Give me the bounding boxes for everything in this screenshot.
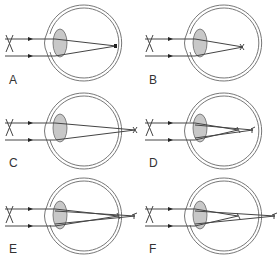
panel-a: A: [0, 0, 139, 88]
panel-b: B: [140, 0, 279, 88]
eye-diagram-e: [0, 176, 139, 264]
eye-diagram-d: [140, 88, 279, 176]
panel-label-d: D: [149, 156, 158, 170]
eye-diagram-c: [0, 88, 139, 176]
panel-e: E: [0, 176, 139, 264]
lens-icon: [53, 114, 67, 142]
lens-icon: [193, 29, 207, 57]
panel-label-f: F: [149, 242, 156, 256]
eye-diagram-b: [140, 0, 279, 88]
eye-diagram-a: [0, 0, 139, 88]
focal-point-icon: [114, 44, 117, 48]
panel-label-e: E: [9, 242, 17, 256]
panel-label-b: B: [149, 73, 157, 87]
panel-label-c: C: [9, 156, 18, 170]
lens-icon: [53, 29, 67, 57]
panel-c: C: [0, 88, 139, 176]
panel-d: D: [140, 88, 279, 176]
panel-label-a: A: [9, 73, 17, 87]
eye-diagram-f: [140, 176, 279, 264]
panel-f: F: [140, 176, 279, 264]
